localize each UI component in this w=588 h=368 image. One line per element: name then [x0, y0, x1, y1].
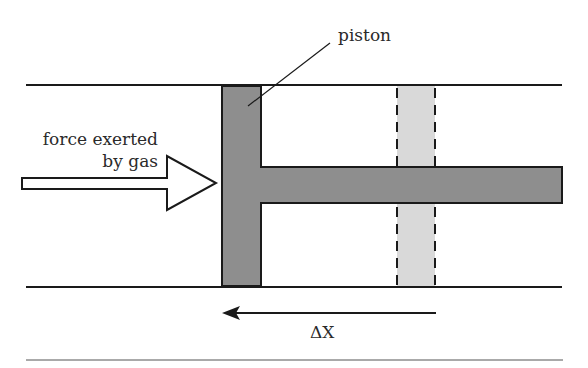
displacement-label: ΔX [310, 322, 335, 342]
force-label-line1: force exerted [43, 129, 158, 149]
piston-diagram: piston force exerted by gas ΔX [0, 0, 588, 368]
piston-leader-line [248, 43, 330, 106]
piston [222, 86, 562, 286]
force-label-line2: by gas [102, 151, 158, 171]
piston-label: piston [338, 25, 391, 45]
